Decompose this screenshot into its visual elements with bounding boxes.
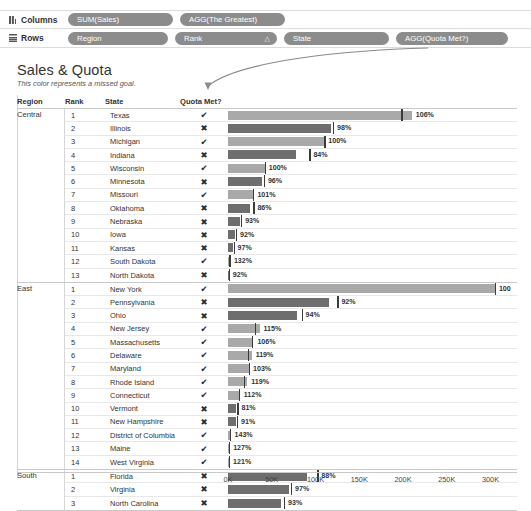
bar-cell[interactable]: 119% [228, 349, 517, 362]
cell-rank: 4 [65, 324, 105, 333]
table-row[interactable]: 5Massachusetts✔106% [65, 336, 517, 349]
sales-bar[interactable] [228, 243, 233, 252]
cell-rank: 2 [65, 298, 105, 307]
columns-shelf-label: Columns [0, 15, 68, 25]
table-row[interactable]: 10Iowa✖92% [65, 229, 517, 242]
table-row[interactable]: 4New Jersey✔115% [65, 323, 517, 336]
table-row[interactable]: 9Connecticut✔112% [65, 389, 517, 402]
bar-cell[interactable]: 106% [228, 109, 517, 122]
cell-rank: 5 [65, 338, 105, 347]
percent-label: 98% [337, 124, 351, 132]
cell-state: Kansas [105, 244, 180, 253]
cell-state: Iowa [105, 230, 180, 239]
bar-cell[interactable]: 100 [228, 282, 517, 295]
table-row[interactable]: 10Vermont✖81% [65, 403, 517, 416]
bar-cell[interactable]: 92% [228, 296, 517, 309]
sales-bar[interactable] [228, 338, 253, 347]
bar-cell[interactable]: 121% [228, 456, 517, 469]
bar-cell[interactable]: 92% [228, 228, 517, 241]
x-tick-label: 250K [438, 475, 455, 484]
table-row[interactable]: 3Ohio✖94% [65, 309, 517, 322]
cell-state: Illinois [105, 124, 180, 133]
sales-bar[interactable] [228, 177, 262, 186]
bar-cell[interactable]: 112% [228, 389, 517, 402]
sales-bar[interactable] [228, 404, 236, 413]
bar-cell[interactable]: 81% [228, 402, 517, 415]
table-row[interactable]: 3North Carolina✖93% [65, 497, 517, 510]
table-row[interactable]: 8Rhode Island✔119% [65, 376, 517, 389]
sales-bar[interactable] [228, 137, 324, 146]
bar-cell[interactable]: 143% [228, 429, 517, 442]
bar-cell[interactable]: 96% [228, 175, 517, 188]
percent-label: 97% [238, 244, 252, 252]
sales-bar[interactable] [228, 111, 412, 120]
bar-cell[interactable]: 92% [228, 269, 517, 282]
bar-cell[interactable]: 93% [228, 497, 517, 510]
bar-cell[interactable]: 127% [228, 442, 517, 455]
sales-bar[interactable] [228, 364, 249, 373]
sort-ascending-icon[interactable]: △ [265, 32, 270, 45]
table-row[interactable]: 14West Virginia✔121% [65, 456, 517, 469]
table-row[interactable]: 1New York✔100 [65, 283, 517, 296]
sales-bar[interactable] [228, 230, 235, 239]
pill-agg-quota-met[interactable]: AGG(Quota Met?) [396, 32, 508, 45]
sales-bar[interactable] [228, 150, 296, 159]
table-row[interactable]: 7Missouri✔101% [65, 189, 517, 202]
sales-bar[interactable] [228, 124, 331, 133]
bar-cell[interactable]: 100% [228, 162, 517, 175]
bar-cell[interactable]: 91% [228, 415, 517, 428]
cell-state: Massachusetts [105, 338, 180, 347]
rows-shelf[interactable]: Rows Region Rank △ State AGG(Quota Met?) [0, 29, 531, 48]
table-row[interactable]: 2Pennsylvania✖92% [65, 296, 517, 309]
bar-cell[interactable]: 101% [228, 188, 517, 201]
table-row[interactable]: 3Michigan✔100% [65, 136, 517, 149]
table-row[interactable]: 12South Dakota✔132% [65, 255, 517, 268]
sales-bar[interactable] [228, 190, 253, 199]
bar-cell[interactable]: 132% [228, 255, 517, 268]
pill-agg-the-greatest[interactable]: AGG(The Greatest) [180, 13, 285, 26]
table-row[interactable]: 12District of Columbia✔143% [65, 429, 517, 442]
bar-cell[interactable]: 103% [228, 362, 517, 375]
pill-state[interactable]: State [284, 32, 389, 45]
bar-cell[interactable]: 98% [228, 122, 517, 135]
table-body: Central1Texas✔106%2Illinois✖98%3Michigan… [17, 109, 517, 511]
table-row[interactable]: 6Delaware✔119% [65, 349, 517, 362]
sales-bar[interactable] [228, 417, 236, 426]
table-row[interactable]: 1Texas✔106% [65, 109, 517, 122]
percent-label: 84% [313, 151, 327, 159]
sales-bar[interactable] [228, 298, 329, 307]
check-icon: ✔ [180, 284, 228, 294]
table-row[interactable]: 6Minnesota✖96% [65, 175, 517, 188]
sales-bar[interactable] [228, 311, 297, 320]
bar-cell[interactable]: 84% [228, 148, 517, 161]
sales-bar[interactable] [228, 164, 265, 173]
sales-bar[interactable] [228, 499, 281, 508]
bar-cell[interactable]: 119% [228, 375, 517, 388]
pill-rank[interactable]: Rank △ [175, 32, 277, 45]
sales-bar[interactable] [228, 204, 250, 213]
bar-cell[interactable]: 93% [228, 215, 517, 228]
bar-cell[interactable]: 94% [228, 309, 517, 322]
columns-shelf[interactable]: Columns SUM(Sales) AGG(The Greatest) [0, 10, 531, 29]
table-row[interactable]: 8Oklahoma✖86% [65, 202, 517, 215]
bar-cell[interactable]: 115% [228, 322, 517, 335]
sales-bar[interactable] [228, 284, 495, 293]
table-row[interactable]: 5Wisconsin✔100% [65, 162, 517, 175]
x-axis: 0K50K100K150K200K250K300K [17, 472, 517, 494]
bar-cell[interactable]: 86% [228, 202, 517, 215]
percent-label: 106% [257, 338, 275, 346]
bar-cell[interactable]: 100% [228, 135, 517, 148]
table-row[interactable]: 11New Hampshire✖91% [65, 416, 517, 429]
table-row[interactable]: 4Indiana✖84% [65, 149, 517, 162]
table-row[interactable]: 7Maryland✔103% [65, 363, 517, 376]
table-row[interactable]: 13Maine✔127% [65, 442, 517, 455]
pill-region[interactable]: Region [68, 32, 168, 45]
pill-sum-sales[interactable]: SUM(Sales) [68, 13, 173, 26]
table-row[interactable]: 2Illinois✖98% [65, 122, 517, 135]
table-row[interactable]: 13North Dakota✖92% [65, 269, 517, 282]
sales-bar[interactable] [228, 217, 240, 226]
bar-cell[interactable]: 106% [228, 336, 517, 349]
bar-cell[interactable]: 97% [228, 241, 517, 254]
table-row[interactable]: 9Nebraska✖93% [65, 215, 517, 228]
table-row[interactable]: 11Kansas✖97% [65, 242, 517, 255]
